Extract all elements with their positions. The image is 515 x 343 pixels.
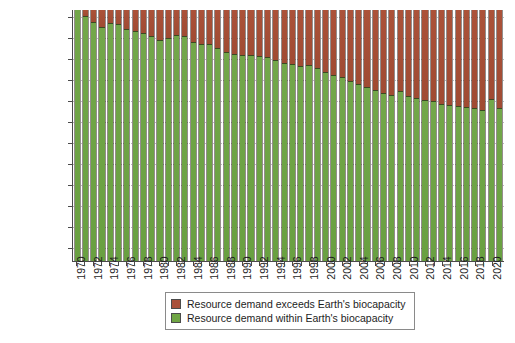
bar-segment-within xyxy=(191,42,196,261)
bar xyxy=(381,10,386,261)
bar-segment-overshoot xyxy=(174,10,179,35)
bar-slot xyxy=(404,10,412,261)
bar-slot xyxy=(479,10,487,261)
bar-slot xyxy=(106,10,114,261)
bar-segment-overshoot xyxy=(489,10,494,99)
bar xyxy=(157,10,162,261)
x-axis-tick-mark xyxy=(217,262,218,266)
bar xyxy=(273,10,278,261)
bar-slot xyxy=(114,10,122,261)
bar-segment-within xyxy=(116,24,121,261)
x-axis-tick-mark xyxy=(267,262,268,266)
bar xyxy=(257,10,262,261)
legend-label-overshoot: Resource demand exceeds Earth's biocapac… xyxy=(187,299,406,310)
bar-segment-overshoot xyxy=(199,10,204,44)
bar xyxy=(364,10,369,261)
bar xyxy=(439,10,444,261)
bar-segment-within xyxy=(199,44,204,261)
bar xyxy=(348,10,353,261)
bar-segment-overshoot xyxy=(191,10,196,42)
bar-segment-within xyxy=(464,107,469,261)
bar-segment-within xyxy=(364,87,369,261)
bar xyxy=(331,10,336,261)
bar-slot xyxy=(131,10,139,261)
bar-segment-overshoot xyxy=(464,10,469,107)
bar-segment-within xyxy=(290,64,295,261)
x-axis-tick-mark xyxy=(301,262,302,266)
bar xyxy=(323,10,328,261)
bar-segment-within xyxy=(99,27,104,261)
bar-segment-within xyxy=(480,110,485,261)
bar-segment-within xyxy=(348,81,353,261)
bar xyxy=(456,10,461,261)
bar-slot xyxy=(280,10,288,261)
bar-segment-overshoot xyxy=(248,10,253,55)
x-axis-tick-mark xyxy=(284,262,285,266)
bar-segment-overshoot xyxy=(207,10,212,44)
bar-slot xyxy=(98,10,106,261)
legend-label-within: Resource demand within Earth's biocapaci… xyxy=(187,313,393,324)
bar-slot xyxy=(73,10,81,261)
bar xyxy=(224,10,229,261)
bar xyxy=(480,10,485,261)
bar-segment-overshoot xyxy=(133,10,138,31)
bar-segment-overshoot xyxy=(306,10,311,65)
bar-segment-within xyxy=(282,63,287,261)
bar-slot xyxy=(214,10,222,261)
x-axis-tick-slot xyxy=(446,262,454,310)
x-axis-tick-slot: 2014 xyxy=(438,262,446,310)
bar-segment-within xyxy=(124,29,129,261)
bar-segment-within xyxy=(414,98,419,261)
bar-slot xyxy=(148,10,156,261)
bar-segment-overshoot xyxy=(224,10,229,52)
bar-segment-overshoot xyxy=(414,10,419,98)
bar xyxy=(149,10,154,261)
bar-segment-within xyxy=(406,96,411,261)
x-axis-tick-mark xyxy=(483,262,484,266)
earth-overshoot-day-chart: JanuaryFebruaryMarchAprilMayJuneJulyAugu… xyxy=(0,0,515,343)
bar-slot xyxy=(487,10,495,261)
x-axis-tick-mark xyxy=(350,262,351,266)
bar-slot xyxy=(247,10,255,261)
plot-area xyxy=(72,10,504,262)
x-axis-tick-slot: 1974 xyxy=(105,262,113,310)
bar xyxy=(356,10,361,261)
bar-slot xyxy=(371,10,379,261)
plot-inner xyxy=(73,10,504,261)
bar-slot xyxy=(297,10,305,261)
bar xyxy=(108,10,113,261)
bar xyxy=(116,10,121,261)
bar-segment-overshoot xyxy=(298,10,303,66)
bar xyxy=(199,10,204,261)
bar-segment-within xyxy=(207,44,212,261)
bar-segment-overshoot xyxy=(232,10,237,54)
bar xyxy=(306,10,311,261)
x-axis-tick-slot xyxy=(130,262,138,310)
x-axis-tick-mark xyxy=(234,262,235,266)
bar-segment-overshoot xyxy=(373,10,378,90)
bar-segment-within xyxy=(398,91,403,261)
bar-segment-within xyxy=(497,108,502,261)
bar-segment-overshoot xyxy=(257,10,262,56)
bar-segment-overshoot xyxy=(472,10,477,108)
x-axis-tick-slot xyxy=(496,262,504,310)
bar-segment-overshoot xyxy=(315,10,320,68)
bar-segment-within xyxy=(182,36,187,261)
x-axis-tick-mark xyxy=(134,262,135,266)
x-axis-tick-slot xyxy=(80,262,88,310)
bar xyxy=(464,10,469,261)
bar-segment-overshoot xyxy=(406,10,411,96)
bar-slot xyxy=(206,10,214,261)
x-axis-tick-slot xyxy=(479,262,487,310)
bar-slot xyxy=(413,10,421,261)
bar-segment-overshoot xyxy=(166,10,171,38)
x-axis-tick-mark xyxy=(101,262,102,266)
bar-segment-within xyxy=(149,36,154,261)
bar-slot xyxy=(495,10,503,261)
x-axis-tick-slot: 2020 xyxy=(488,262,496,310)
bar-segment-within xyxy=(91,22,96,261)
bar-segment-within xyxy=(141,33,146,261)
bar-segment-within xyxy=(224,52,229,261)
bar xyxy=(406,10,411,261)
bar-segment-overshoot xyxy=(356,10,361,84)
